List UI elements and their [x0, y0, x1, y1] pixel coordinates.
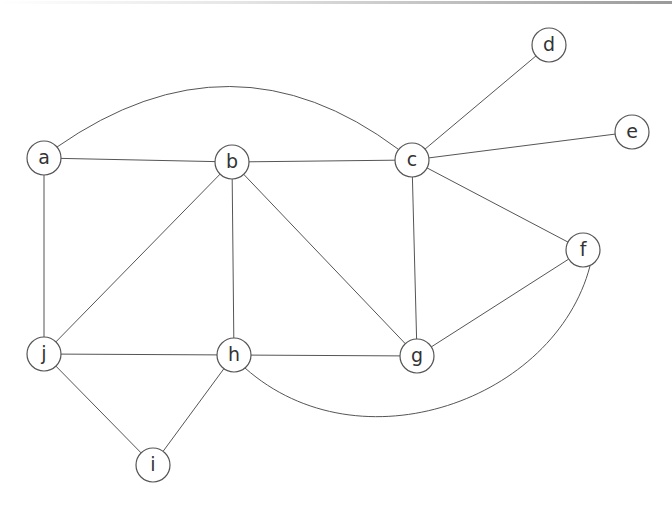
node-label: h [228, 343, 240, 365]
node-c: c [395, 143, 429, 177]
node-j: j [27, 337, 61, 371]
nodes-layer: abcdefghij [27, 28, 649, 482]
edge-b-j [56, 174, 220, 342]
node-g: g [400, 339, 434, 373]
node-label: j [40, 342, 46, 364]
node-f: f [566, 233, 600, 267]
top-border [0, 1, 672, 4]
edge-f-g [431, 259, 568, 347]
edge-c-e [429, 134, 615, 158]
edge-b-h [232, 179, 234, 338]
edge-b-g [244, 174, 406, 343]
edges-layer [44, 56, 615, 453]
node-label: a [38, 146, 50, 168]
node-e: e [615, 115, 649, 149]
node-d: d [532, 28, 566, 62]
edge-c-g [412, 177, 416, 339]
node-label: i [150, 453, 155, 475]
node-label: c [407, 148, 417, 170]
edge-c-f [427, 168, 568, 242]
node-label: g [411, 344, 423, 366]
edge-h-i [163, 369, 224, 452]
edge-c-d [425, 56, 536, 149]
node-b: b [215, 145, 249, 179]
edge-b-c [249, 160, 395, 162]
node-a: a [27, 141, 61, 175]
graph-diagram: abcdefghij [0, 0, 672, 512]
node-label: e [626, 120, 638, 142]
edge-j-h [61, 354, 217, 355]
node-label: d [543, 33, 555, 55]
edge-a-c [57, 86, 398, 149]
node-h: h [217, 338, 251, 372]
edge-a-b [61, 158, 215, 161]
edge-j-i [56, 366, 141, 453]
edge-h-g [251, 355, 400, 356]
node-i: i [136, 448, 170, 482]
node-label: b [226, 150, 238, 172]
